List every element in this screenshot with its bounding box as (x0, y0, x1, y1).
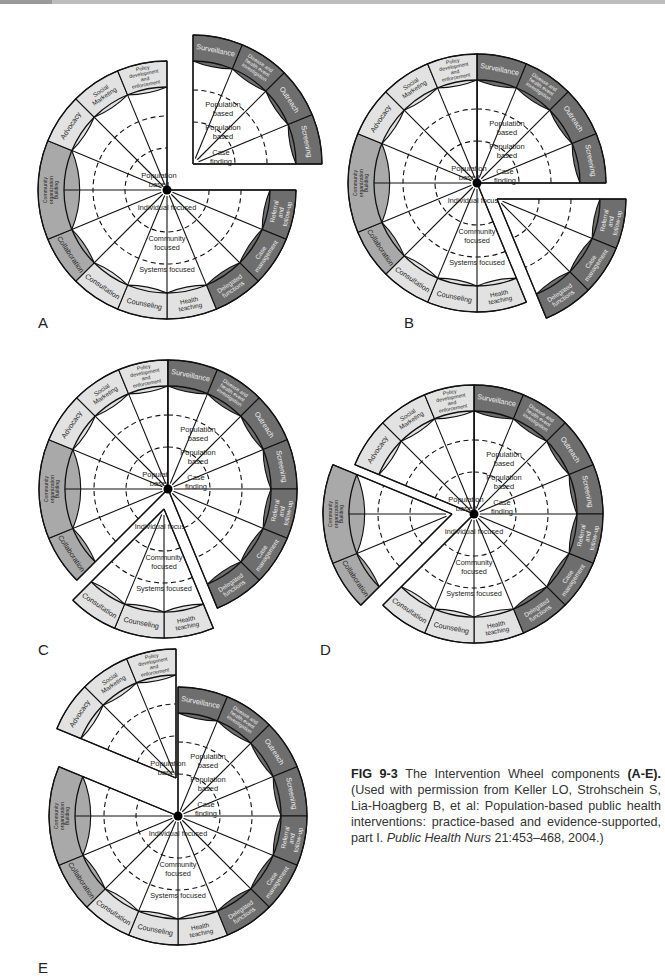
figure-caption: FIG 9-3 The Intervention Wheel component… (351, 766, 661, 846)
level-label: Systems focused (150, 891, 206, 900)
level-label: Casefinding (210, 148, 232, 166)
level-label: Individual focused (138, 203, 196, 212)
wheel-e: SurveillanceDisease andhealth eventinves… (49, 649, 307, 945)
panel-label-a: A (38, 314, 48, 331)
figure-number: FIG 9-3 (351, 767, 398, 781)
level-label: Systems focused (139, 265, 195, 274)
wheel-hub (164, 485, 173, 494)
caption-journal: Public Health Nurs (387, 831, 491, 845)
wheel-a: Referralandfollow-upCasemanagementDelega… (38, 35, 322, 319)
level-label: Casefinding (494, 167, 516, 185)
level-label: Individual focused (445, 527, 503, 536)
caption-citation: 21:453–468, 2004.) (495, 831, 604, 845)
caption-range: (A-E). (627, 767, 661, 781)
wheel-hub (174, 812, 183, 821)
panel-label-b: B (404, 314, 414, 331)
panel-label-e: E (38, 959, 48, 976)
level-label: Systems focused (449, 258, 505, 267)
panel-label-d: D (320, 641, 331, 658)
wheel-hub (473, 179, 482, 188)
level-label: Individual focused (149, 829, 207, 838)
panel-label-c: C (38, 641, 49, 658)
level-label: Casefinding (195, 800, 217, 818)
level-label: Casefinding (185, 473, 207, 491)
wheel-hub (470, 510, 479, 519)
wheel-c: CollaborationCommunityorganizationBuildi… (39, 360, 297, 638)
wheel-hub (163, 186, 172, 195)
caption-title: The Intervention Wheel components (405, 767, 620, 781)
wheel-b: SurveillanceDisease andhealth eventinves… (348, 54, 626, 318)
wheel-e-policy-wedge: AdvocacySocialMarketingPolicydevelopment… (57, 649, 186, 778)
wheel-d: SurveillanceDisease andhealth eventinves… (323, 385, 603, 643)
wheel-a-surveillance-quadrant: SurveillanceDisease andhealth eventinves… (193, 35, 322, 166)
level-label: Systems focused (136, 584, 192, 593)
level-label: Casefinding (491, 498, 513, 516)
level-label: Systems focused (446, 589, 502, 598)
wheel-b-top-right: SurveillanceDisease andhealth eventinves… (477, 54, 606, 185)
